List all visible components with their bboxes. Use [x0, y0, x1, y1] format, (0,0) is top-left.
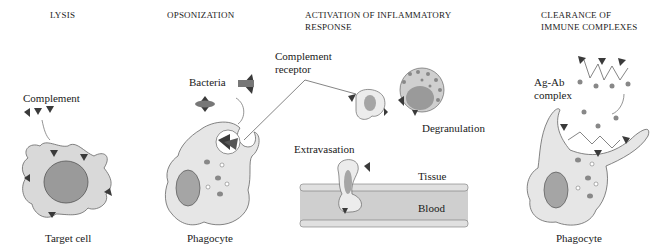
panel-title-clearance-2: IMMUNE COMPLEXES [541, 21, 637, 33]
label-blood: Blood [418, 202, 445, 214]
target-cell [22, 106, 112, 218]
ag-ab-chain [568, 60, 628, 148]
label-ag-ab-1: Ag-Ab [534, 76, 565, 88]
label-bacteria: Bacteria [189, 76, 226, 88]
receptor-leader-line [244, 80, 356, 140]
label-phagocyte-2: Phagocyte [556, 232, 602, 244]
panel-title-inflammatory-1: ACTIVATION OF INFLAMMATORY [305, 9, 451, 21]
mast-cell [398, 68, 444, 116]
phagocyte-opsonization [165, 74, 259, 225]
label-extravasation: Extravasation [294, 143, 354, 155]
label-target-cell: Target cell [45, 232, 91, 244]
panel-title-inflammatory-2: RESPONSE [305, 21, 352, 33]
label-tissue: Tissue [418, 170, 446, 182]
label-ag-ab-2: complex [534, 89, 572, 101]
panel-title-clearance-1: CLEARANCE OF [541, 9, 611, 21]
label-phagocyte-1: Phagocyte [187, 232, 233, 244]
label-complement-receptor-2: receptor [275, 63, 311, 75]
panel-title-opsonization: OPSONIZATION [167, 9, 234, 21]
diagram-canvas [0, 0, 668, 252]
label-complement: Complement [23, 92, 80, 104]
label-complement-receptor-1: Complement [275, 50, 332, 62]
inflammatory-cell [348, 89, 388, 119]
label-degranulation: Degranulation [422, 122, 485, 134]
panel-title-lysis: LYSIS [50, 9, 75, 21]
